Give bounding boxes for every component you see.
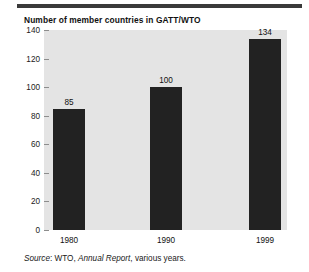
bar-value-label: 85 bbox=[64, 98, 73, 107]
y-axis-tick-label: 0 bbox=[6, 226, 40, 235]
y-axis-tick-label: 20 bbox=[6, 197, 40, 206]
y-axis-tick-label: 40 bbox=[6, 168, 40, 177]
figure-container: Number of member countries in GATT/WTO 0… bbox=[0, 0, 309, 272]
y-axis-tick-mark bbox=[44, 144, 49, 145]
source-publisher: WTO, bbox=[55, 254, 79, 263]
y-axis-tick-label: 60 bbox=[6, 140, 40, 149]
bar bbox=[53, 109, 85, 230]
y-axis-tick-label: 140 bbox=[6, 26, 40, 35]
x-axis-category-label: 1990 bbox=[157, 236, 175, 245]
source-suffix: , various years. bbox=[130, 254, 186, 263]
source-note: Source: WTO, Annual Report, various year… bbox=[24, 254, 186, 263]
y-axis-tick-label: 100 bbox=[6, 83, 40, 92]
y-axis-tick-mark bbox=[44, 116, 49, 117]
y-axis-tick-mark bbox=[44, 201, 49, 202]
x-axis-category-label: 1999 bbox=[256, 236, 274, 245]
y-axis-tick-mark bbox=[44, 230, 49, 231]
bar bbox=[249, 39, 281, 230]
y-axis-tick-mark bbox=[44, 173, 49, 174]
y-axis-tick-label: 80 bbox=[6, 111, 40, 120]
source-publication: Annual Report bbox=[78, 254, 130, 263]
bar-value-label: 100 bbox=[159, 76, 173, 85]
bar bbox=[150, 87, 182, 230]
x-axis-category-label: 1980 bbox=[60, 236, 78, 245]
y-axis-tick-label: 120 bbox=[6, 54, 40, 63]
chart-title: Number of member countries in GATT/WTO bbox=[24, 15, 201, 25]
top-rule-divider bbox=[17, 4, 302, 8]
y-axis-tick-mark bbox=[44, 59, 49, 60]
bar-value-label: 134 bbox=[258, 28, 272, 37]
source-label: Source bbox=[24, 254, 50, 263]
y-axis-tick-mark bbox=[44, 30, 49, 31]
y-axis-tick-mark bbox=[44, 87, 49, 88]
